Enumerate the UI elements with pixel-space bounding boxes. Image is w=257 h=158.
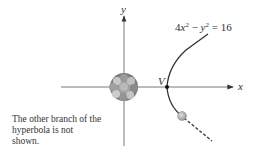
vertex-point bbox=[165, 85, 169, 89]
particle-trajectory bbox=[184, 118, 212, 141]
x-axis-label: x bbox=[238, 80, 243, 92]
alpha-particle-icon bbox=[178, 112, 187, 121]
hyperbola-equation: 4x2 − y2 = 16 bbox=[175, 21, 232, 33]
hyperbola-upper-branch bbox=[167, 34, 208, 87]
eq-rhs: = 16 bbox=[209, 21, 232, 33]
vertex-label: V bbox=[158, 75, 165, 87]
nucleus-icon bbox=[109, 73, 138, 101]
caption-note: The other branch of the hyperbola is not… bbox=[12, 114, 102, 147]
eq-minus: − bbox=[189, 21, 201, 33]
y-axis-label: y bbox=[121, 3, 126, 15]
hyperbola-lower-branch bbox=[167, 87, 182, 116]
